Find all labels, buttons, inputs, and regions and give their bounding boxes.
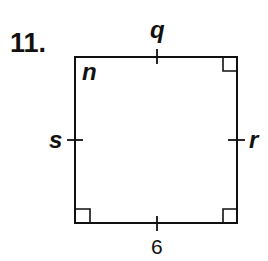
right-angle-marker-bottom-right [223,209,237,223]
right-angle-marker-top-right [223,57,237,71]
label-q: q [150,16,165,43]
square-diagram: q n s r 6 [0,0,268,261]
label-r: r [249,126,260,153]
label-s: s [49,126,62,153]
right-angle-marker-bottom-left [75,209,90,223]
label-n: n [82,58,97,85]
square-outline [75,57,237,223]
label-side-length: 6 [151,235,163,258]
